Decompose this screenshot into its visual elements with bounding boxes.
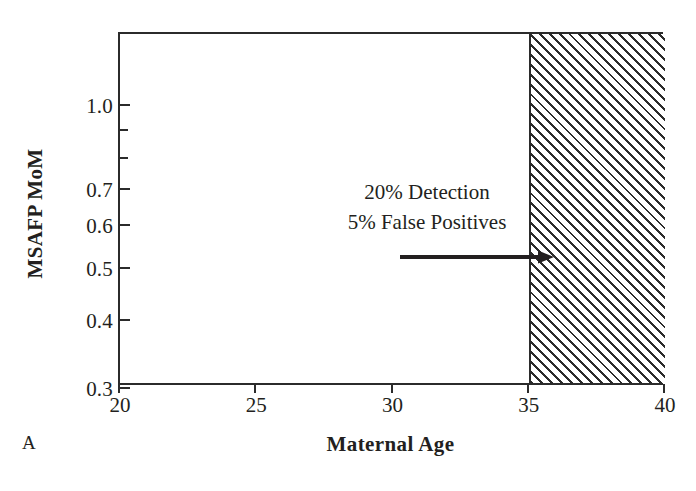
y-axis-tick: 1.0 (119, 104, 130, 106)
y-axis-tick (119, 129, 128, 131)
x-axis-tick-label: 25 (246, 395, 267, 416)
annotation-line-1: 20% Detection (282, 178, 572, 208)
y-axis-tick: 0.5 (119, 267, 130, 269)
y-axis-tick: 0.6 (119, 224, 130, 226)
arrow-right-icon (282, 248, 572, 266)
y-axis-tick: 0.3 (119, 387, 130, 389)
panel-letter: A (22, 433, 36, 452)
y-axis-tick-label: 1.0 (86, 96, 113, 117)
y-axis-tick (119, 157, 128, 159)
x-axis-tick-label: 30 (382, 395, 403, 416)
x-axis-tick-label: 40 (655, 395, 676, 416)
plot-area: 1.00.70.60.50.40.3 20% Detection 5% Fals… (118, 32, 663, 385)
y-axis-tick-label: 0.6 (86, 216, 113, 237)
detection-annotation: 20% Detection 5% False Positives (282, 178, 572, 266)
x-axis-tick: 30 (391, 384, 393, 393)
x-axis-tick-label: 35 (518, 395, 539, 416)
figure-panel-a: MSAFP MoM 1.00.70.60.50.40.3 20% Detecti… (0, 0, 696, 491)
annotation-line-2: 5% False Positives (282, 208, 572, 238)
y-axis-title-text: MSAFP MoM (23, 148, 48, 278)
x-axis-title: Maternal Age (118, 432, 663, 457)
y-axis-tick-label: 0.5 (86, 259, 113, 280)
y-axis-title: MSAFP MoM (17, 118, 53, 308)
x-axis-tick-label: 20 (110, 395, 131, 416)
y-axis-tick: 0.7 (119, 188, 130, 190)
x-axis-tick: 35 (527, 384, 529, 393)
y-axis-tick-label: 0.7 (86, 180, 113, 201)
x-axis-tick: 20 (118, 384, 120, 393)
y-axis-tick-label: 0.4 (86, 311, 113, 332)
y-axis-tick: 0.4 (119, 319, 130, 321)
x-axis-tick: 25 (254, 384, 256, 393)
x-axis-tick: 40 (663, 384, 665, 393)
